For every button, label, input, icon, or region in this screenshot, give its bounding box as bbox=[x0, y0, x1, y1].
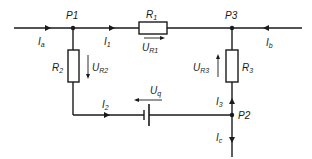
label-ur3: UR3 bbox=[193, 62, 209, 74]
label-ic: Ic bbox=[216, 132, 223, 144]
label-i2: I2 bbox=[102, 99, 109, 111]
resistor-r3 bbox=[226, 50, 238, 82]
current-arrow-ib bbox=[263, 25, 269, 31]
resistor-r2 bbox=[68, 50, 79, 82]
label-r1: R1 bbox=[146, 9, 157, 21]
current-arrow-i1 bbox=[109, 25, 115, 31]
label-i3: I3 bbox=[216, 96, 223, 108]
circuit-diagram: P1 P3 P2 R1 R2 R3 UR1 UR2 UR3 Uq Ia I1 I… bbox=[0, 0, 312, 159]
node-p3-dot bbox=[230, 26, 234, 30]
current-arrow-i3 bbox=[229, 98, 235, 104]
node-label-p1: P1 bbox=[66, 10, 78, 21]
voltage-arrowhead-ur2 bbox=[86, 74, 90, 79]
node-label-p3: P3 bbox=[225, 10, 238, 21]
voltage-arrowhead-ur3 bbox=[216, 54, 220, 59]
label-ur1: UR1 bbox=[142, 42, 158, 54]
current-arrow-ic bbox=[229, 137, 235, 143]
node-label-p2: P2 bbox=[238, 110, 251, 121]
label-ur2: UR2 bbox=[92, 62, 108, 74]
label-r3: R3 bbox=[242, 62, 253, 74]
node-p2-dot bbox=[230, 113, 234, 117]
label-r2: R2 bbox=[52, 62, 63, 74]
current-arrow-i2 bbox=[104, 112, 110, 118]
label-i1: I1 bbox=[104, 36, 111, 48]
resistor-r1 bbox=[139, 22, 167, 34]
voltage-arrowhead-ur1 bbox=[160, 36, 165, 40]
node-p1-dot bbox=[71, 26, 75, 30]
label-ia: Ia bbox=[38, 36, 45, 48]
voltage-arrowhead-uq bbox=[134, 98, 139, 102]
label-uq: Uq bbox=[150, 85, 161, 98]
current-arrow-ia bbox=[45, 25, 51, 31]
label-ib: Ib bbox=[266, 37, 273, 49]
